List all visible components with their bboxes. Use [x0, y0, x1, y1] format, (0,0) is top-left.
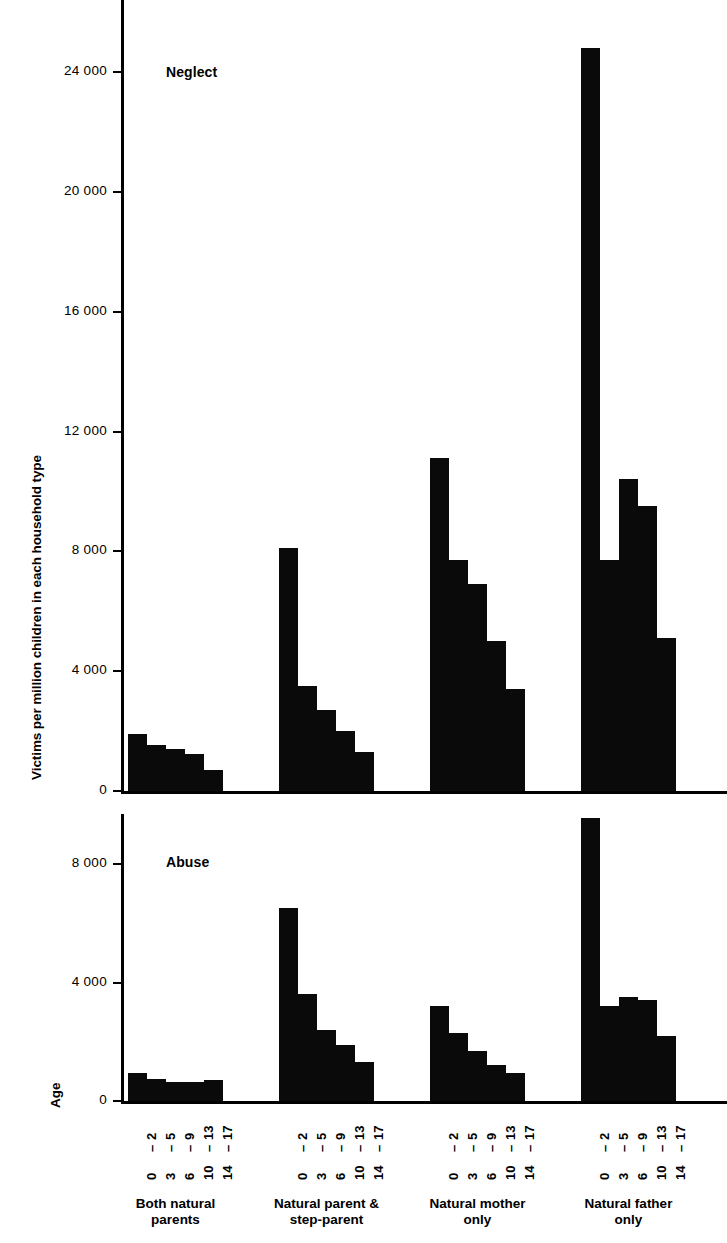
bar [581, 48, 600, 791]
y-tick [113, 311, 122, 313]
age-label-lower: 6 [484, 1173, 499, 1180]
abuse-y-axis [121, 814, 124, 1104]
age-label-upper: 5 [616, 1133, 631, 1140]
y-tick-label: 20 000 [64, 183, 107, 198]
age-label-lower: 0 [295, 1173, 310, 1180]
bar [279, 548, 298, 791]
bar [147, 1079, 166, 1101]
neglect-x-axis [121, 791, 727, 794]
age-label-lower: 0 [446, 1173, 461, 1180]
age-label-upper: 13 [503, 1126, 518, 1140]
age-label-dash: – [522, 1145, 537, 1152]
age-label-dash: – [654, 1145, 669, 1152]
age-label-dash: – [333, 1145, 348, 1152]
bar [468, 1051, 487, 1101]
age-label-upper: 9 [182, 1133, 197, 1140]
age-label-lower: 10 [654, 1166, 669, 1180]
bar [204, 770, 223, 791]
age-label-upper: 5 [465, 1133, 480, 1140]
bar [487, 641, 506, 791]
bar [355, 752, 374, 791]
age-label-upper: 2 [295, 1133, 310, 1140]
figure-root: Victims per million children in each hou… [0, 0, 727, 1243]
y-tick [113, 431, 122, 433]
bar [657, 1036, 676, 1101]
y-tick-label: 24 000 [64, 63, 107, 78]
y-tick [113, 670, 122, 672]
bar [449, 1033, 468, 1101]
age-label-lower: 14 [371, 1166, 386, 1180]
bar [600, 1006, 619, 1101]
bar [449, 560, 468, 791]
age-label-lower: 14 [220, 1166, 235, 1180]
age-label-dash: – [314, 1145, 329, 1152]
age-label-upper: 13 [201, 1126, 216, 1140]
age-label-dash: – [673, 1145, 688, 1152]
y-tick-label: 0 [99, 782, 107, 797]
y-tick-label: 8 000 [72, 855, 107, 870]
age-label-dash: – [616, 1145, 631, 1152]
household-type-label: Natural mother only [403, 1196, 553, 1228]
age-label-dash: – [465, 1145, 480, 1152]
age-label-dash: – [446, 1145, 461, 1152]
bar [317, 710, 336, 791]
bar [657, 638, 676, 791]
bar [298, 686, 317, 791]
age-label-lower: 0 [144, 1173, 159, 1180]
bar [638, 506, 657, 791]
household-type-label: Natural parent & step-parent [252, 1196, 402, 1228]
age-label-dash: – [220, 1145, 235, 1152]
abuse-panel-title: Abuse [166, 854, 209, 870]
age-label-upper: 13 [654, 1126, 669, 1140]
age-label-upper: 17 [371, 1126, 386, 1140]
age-label-lower: 14 [522, 1166, 537, 1180]
age-label-upper: 5 [314, 1133, 329, 1140]
age-label-lower: 3 [616, 1173, 631, 1180]
age-label-upper: 2 [597, 1133, 612, 1140]
age-label-lower: 6 [182, 1173, 197, 1180]
age-label-lower: 3 [465, 1173, 480, 1180]
age-label-dash: – [597, 1145, 612, 1152]
bar [487, 1065, 506, 1101]
bar [204, 1080, 223, 1101]
bar [430, 458, 449, 791]
age-label-dash: – [635, 1145, 650, 1152]
age-label-upper: 17 [220, 1126, 235, 1140]
age-label-dash: – [484, 1145, 499, 1152]
bar [619, 479, 638, 791]
y-tick-label: 16 000 [64, 303, 107, 318]
age-label-upper: 5 [163, 1133, 178, 1140]
bar [355, 1062, 374, 1101]
bar [638, 1000, 657, 1101]
bar [336, 1045, 355, 1101]
bar [600, 560, 619, 791]
age-label-lower: 10 [201, 1166, 216, 1180]
y-tick [113, 863, 122, 865]
neglect-panel-title: Neglect [166, 64, 217, 80]
bar [619, 997, 638, 1101]
age-label-upper: 9 [635, 1133, 650, 1140]
age-label-lower: 6 [635, 1173, 650, 1180]
y-tick [113, 790, 122, 792]
y-tick [113, 982, 122, 984]
age-label-dash: – [163, 1145, 178, 1152]
age-label-upper: 17 [522, 1126, 537, 1140]
age-label-upper: 2 [446, 1133, 461, 1140]
y-tick-label: 4 000 [72, 974, 107, 989]
age-label-dash: – [371, 1145, 386, 1152]
y-tick-label: 8 000 [72, 542, 107, 557]
bar [128, 1073, 147, 1101]
age-label-dash: – [144, 1145, 159, 1152]
household-type-label: Both natural parents [101, 1196, 251, 1228]
bar [185, 1082, 204, 1101]
age-label-dash: – [503, 1145, 518, 1152]
age-label-dash: – [295, 1145, 310, 1152]
panel-abuse: Abuse 04 0008 000 [0, 806, 727, 1106]
age-label-lower: 3 [163, 1173, 178, 1180]
age-label-lower: 14 [673, 1166, 688, 1180]
age-axis-caption: Age [48, 1082, 63, 1108]
abuse-x-axis [121, 1101, 727, 1104]
age-label-upper: 9 [484, 1133, 499, 1140]
y-tick-label: 0 [99, 1092, 107, 1107]
bar [581, 818, 600, 1101]
